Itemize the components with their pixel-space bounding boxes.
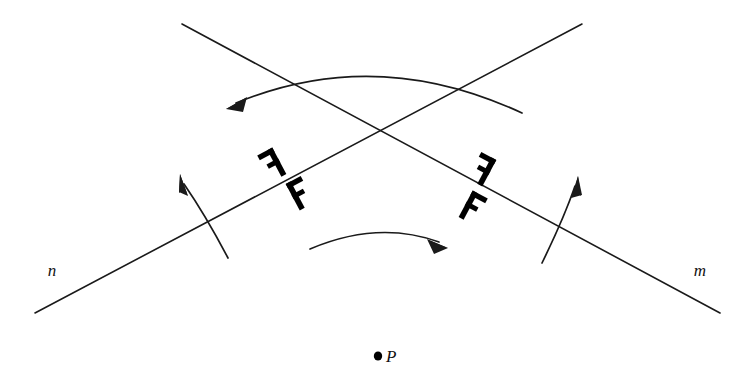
arc-right-reflection-arrowhead-fill [571,176,582,198]
arc-center-rotation [310,233,448,254]
arc-left-reflection [179,174,228,258]
line-label-n: n [48,261,57,280]
arc-left-reflection-arrowhead-fill [179,174,188,196]
f-glyph-lower-left [286,176,315,210]
arc-left-reflection-path [184,184,228,258]
point-p-group: P [374,347,397,366]
arc-top-rotation-path [236,76,522,113]
geometry-figure: n m P [0,0,742,378]
arc-top-rotation-arrowhead-fill [226,97,247,112]
line-label-m: m [694,261,706,280]
point-p-dot [374,351,382,360]
arc-right-reflection [542,176,582,263]
lines-group [35,24,720,313]
line-n [182,24,720,313]
f-glyph-upper-right [467,152,496,186]
arc-top-rotation [226,76,522,113]
f-glyphs-group [257,148,496,225]
f-glyph-upper-left [257,148,286,182]
line-m [35,24,582,313]
arc-right-reflection-path [542,186,575,263]
arc-center-rotation-path [310,233,439,249]
f-glyph-lower-right [459,191,488,225]
figure-canvas: n m P [0,0,742,378]
point-label-p: P [385,347,396,366]
